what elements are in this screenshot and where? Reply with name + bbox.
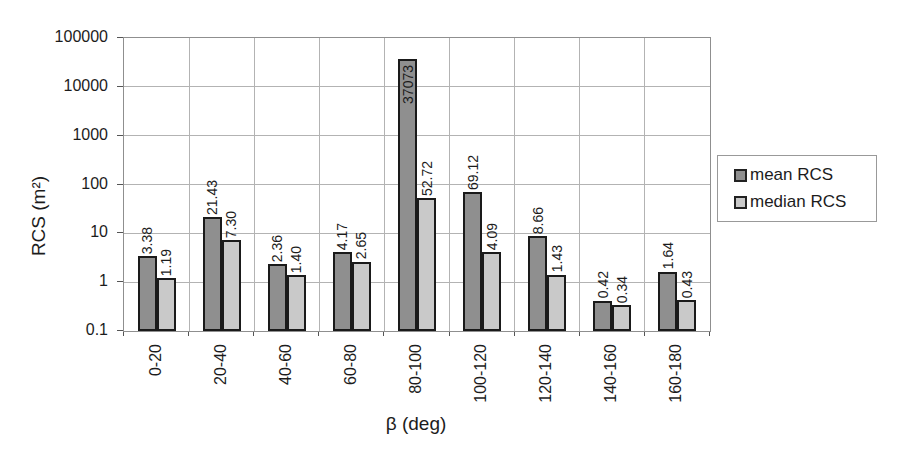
x-category-label: 120-140 bbox=[538, 344, 555, 403]
gridline-vertical bbox=[514, 38, 515, 331]
bar-value-label: 37073 bbox=[400, 65, 415, 104]
x-category-label: 160-180 bbox=[668, 344, 685, 403]
gridline-vertical bbox=[449, 38, 450, 331]
y-tick-label: 100 bbox=[0, 175, 108, 193]
x-category-label: 20-40 bbox=[212, 344, 229, 385]
bar-value-label: 4.17 bbox=[335, 223, 350, 250]
bar-mean-40-60 bbox=[268, 264, 287, 331]
x-category-label: 100-120 bbox=[473, 344, 490, 403]
legend-swatch-median bbox=[734, 196, 747, 209]
y-tick-label: 100000 bbox=[0, 28, 108, 46]
y-tick-label: 1000 bbox=[0, 126, 108, 144]
legend-swatch-mean bbox=[734, 169, 747, 182]
bar-median-20-40 bbox=[222, 240, 241, 331]
gridline-vertical bbox=[254, 38, 255, 331]
bar-value-label: 1.43 bbox=[549, 245, 564, 272]
bar-value-label: 1.19 bbox=[159, 249, 174, 276]
chart: RCS (m²) 1000001000010001001010.1 3.3821… bbox=[0, 0, 907, 465]
legend-label-median: median RCS bbox=[750, 192, 846, 212]
bar-median-80-100 bbox=[417, 198, 436, 331]
bar-value-label: 1.64 bbox=[661, 242, 676, 269]
bar-mean-120-140 bbox=[528, 236, 547, 331]
bar-value-label: 4.09 bbox=[484, 223, 499, 250]
bar-mean-100-120 bbox=[463, 192, 482, 331]
bar-value-label: 3.38 bbox=[140, 227, 155, 254]
y-tick-label: 10000 bbox=[0, 77, 108, 95]
x-axis-title: β (deg) bbox=[386, 413, 447, 435]
legend-label-mean: mean RCS bbox=[750, 165, 833, 185]
bar-median-120-140 bbox=[547, 275, 566, 331]
gridline-vertical bbox=[189, 38, 190, 331]
gridline-vertical bbox=[384, 38, 385, 331]
plot-area: 3.3821.432.364.173707369.128.660.421.641… bbox=[123, 37, 711, 332]
bar-value-label: 1.40 bbox=[289, 246, 304, 273]
x-category-label: 80-100 bbox=[408, 344, 425, 394]
bar-median-140-160 bbox=[612, 305, 631, 331]
x-category-label: 0-20 bbox=[147, 344, 164, 376]
bar-value-label: 8.66 bbox=[530, 207, 545, 234]
gridline-horizontal bbox=[124, 86, 710, 87]
bar-median-100-120 bbox=[482, 252, 501, 331]
bar-value-label: 0.43 bbox=[680, 271, 695, 298]
bar-mean-20-40 bbox=[203, 217, 222, 331]
gridline-vertical bbox=[319, 38, 320, 331]
y-tick-label: 10 bbox=[0, 223, 108, 241]
bar-mean-160-180 bbox=[658, 272, 677, 331]
x-category-label: 60-80 bbox=[342, 344, 359, 385]
gridline-vertical bbox=[579, 38, 580, 331]
bar-value-label: 69.12 bbox=[465, 155, 480, 190]
x-category-label: 140-160 bbox=[603, 344, 620, 403]
bar-median-60-80 bbox=[352, 262, 371, 332]
x-category-label: 40-60 bbox=[277, 344, 294, 385]
gridline-vertical bbox=[644, 38, 645, 331]
legend-item-mean: mean RCS bbox=[734, 165, 876, 185]
legend-item-median: median RCS bbox=[734, 192, 876, 212]
bar-median-160-180 bbox=[677, 300, 696, 331]
bar-median-0-20 bbox=[157, 278, 176, 331]
bar-value-label: 2.36 bbox=[270, 235, 285, 262]
bar-value-label: 52.72 bbox=[419, 161, 434, 196]
bar-mean-140-160 bbox=[593, 301, 612, 331]
legend: mean RCS median RCS bbox=[717, 155, 877, 222]
gridline-horizontal bbox=[124, 135, 710, 136]
bar-value-label: 0.34 bbox=[614, 276, 629, 303]
y-tick-label: 0.1 bbox=[0, 321, 108, 339]
bar-value-label: 7.30 bbox=[224, 211, 239, 238]
bar-median-40-60 bbox=[287, 275, 306, 331]
y-tick-label: 1 bbox=[0, 272, 108, 290]
bar-value-label: 21.43 bbox=[205, 180, 220, 215]
bar-mean-0-20 bbox=[138, 256, 157, 331]
bar-value-label: 0.42 bbox=[595, 271, 610, 298]
bar-mean-60-80 bbox=[333, 252, 352, 331]
bar-value-label: 2.65 bbox=[354, 232, 369, 259]
